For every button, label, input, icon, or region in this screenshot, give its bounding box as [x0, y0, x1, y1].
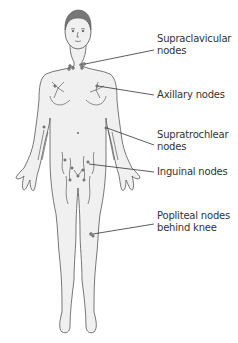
label-line: nodes — [157, 45, 231, 57]
lymph-node-diagram: Supraclavicular nodes Axillary nodes Sup… — [0, 0, 238, 343]
label-line: behind knee — [157, 222, 230, 234]
body-outline — [16, 44, 140, 333]
label-supraclavicular: Supraclavicular nodes — [157, 33, 231, 57]
label-line: Supraclavicular — [157, 33, 231, 45]
label-line: Axillary nodes — [157, 89, 225, 101]
label-line: Inguinal nodes — [157, 166, 228, 178]
label-supratrochlear: Supratrochlear nodes — [157, 129, 228, 153]
label-line: nodes — [157, 141, 228, 153]
label-popliteal: Popliteal nodes behind knee — [157, 210, 230, 234]
label-inguinal: Inguinal nodes — [157, 166, 228, 178]
label-axillary: Axillary nodes — [157, 89, 225, 101]
label-line: Supratrochlear — [157, 129, 228, 141]
label-line: Popliteal nodes — [157, 210, 230, 222]
